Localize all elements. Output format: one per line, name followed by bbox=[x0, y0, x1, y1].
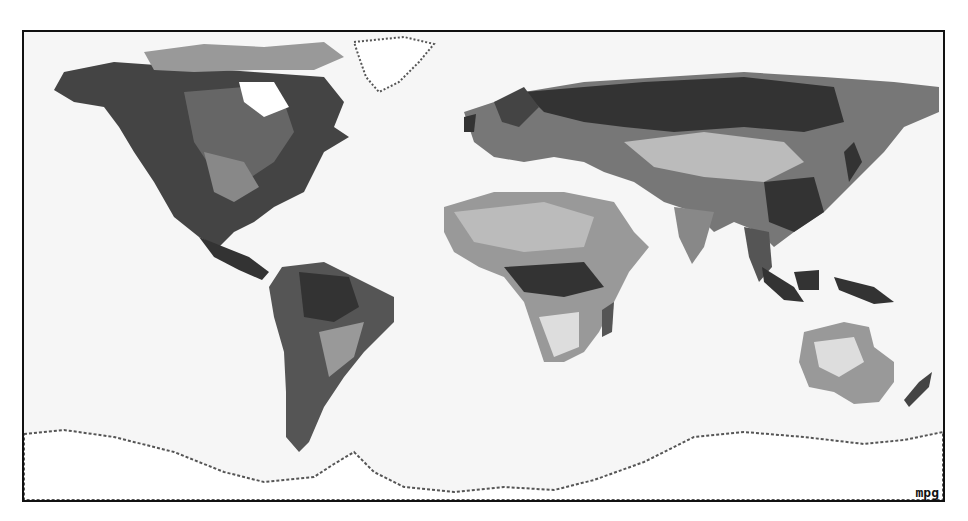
world-map bbox=[24, 32, 943, 500]
world-map-frame: mpg bbox=[22, 30, 945, 502]
map-label: mpg bbox=[916, 486, 939, 499]
